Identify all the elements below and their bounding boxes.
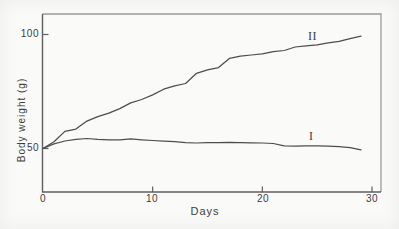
plot-axes-left-bottom xyxy=(43,14,382,192)
series-label-I: I xyxy=(309,129,314,144)
plot-frame-top-right xyxy=(43,14,382,192)
y-tick-label-100: 100 xyxy=(10,28,39,39)
x-tick-label-10: 10 xyxy=(140,193,164,204)
x-tick-label-20: 20 xyxy=(251,193,275,204)
x-tick-label-0: 0 xyxy=(31,193,55,204)
x-tick-label-30: 30 xyxy=(360,193,384,204)
body-weight-growth-chart-figure: 100 50 0 10 20 30 Days Body weight (g) I… xyxy=(0,0,399,229)
line-chart-canvas xyxy=(0,0,399,229)
x-axis-label: Days xyxy=(170,205,240,217)
series-label-II: II xyxy=(308,29,317,44)
y-axis-label: Body weight (g) xyxy=(16,78,27,162)
